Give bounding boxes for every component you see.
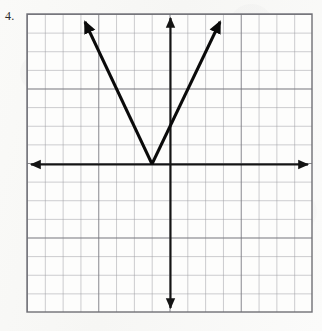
coordinate-grid-graph	[0, 0, 322, 331]
worksheet-page: 4.	[0, 0, 322, 331]
